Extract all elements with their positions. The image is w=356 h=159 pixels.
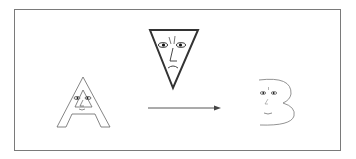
diagram-canvas	[0, 0, 356, 159]
letter-a-face	[57, 77, 110, 127]
transform-arrow	[148, 106, 221, 111]
triangle-face	[150, 30, 198, 88]
letter-b-face	[259, 79, 294, 125]
